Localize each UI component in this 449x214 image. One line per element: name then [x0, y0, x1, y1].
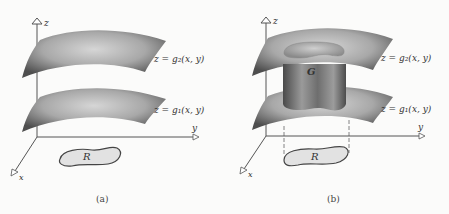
caption-b: (b) [327, 194, 340, 204]
z-axis-label: z [43, 18, 49, 28]
lower-surface-label: z = g₁(x, y) [380, 104, 432, 114]
panel-a: z y x R z = g₂(x, y) z = g₁(x, y) (a) [11, 18, 205, 204]
x-axis [244, 136, 266, 169]
region-r-label: R [82, 151, 91, 162]
solid-g-top-cap [284, 42, 344, 58]
y-axis-label: y [191, 123, 198, 133]
upper-surface-g2 [22, 30, 166, 78]
panel-b: z G y x R z = g₂(x, y) z = g₁(x, y) (b) [240, 16, 432, 204]
figure-canvas: z y x R z = g₂(x, y) z = g₁(x, y) (a) z [0, 0, 449, 214]
y-axis-arrow-icon [193, 134, 199, 140]
x-axis-label: x [248, 170, 253, 179]
upper-surface-label: z = g₂(x, y) [153, 54, 205, 64]
upper-surface-label: z = g₂(x, y) [380, 53, 432, 63]
x-axis-arrow-icon [11, 169, 18, 176]
lower-surface-label: z = g₁(x, y) [153, 105, 205, 115]
y-axis-label: y [417, 122, 424, 132]
y-axis-arrow-icon [419, 133, 425, 139]
x-axis-arrow-icon [240, 167, 247, 174]
x-axis-label: x [19, 173, 24, 182]
z-axis-arrow-icon [261, 17, 271, 23]
lower-surface-g1 [22, 88, 166, 132]
x-axis [15, 137, 37, 171]
z-axis-arrow-icon [32, 18, 42, 24]
solid-g-label: G [307, 66, 316, 77]
caption-a: (a) [96, 194, 108, 204]
region-r-label: R [310, 151, 319, 162]
z-axis-label: z [272, 16, 278, 26]
